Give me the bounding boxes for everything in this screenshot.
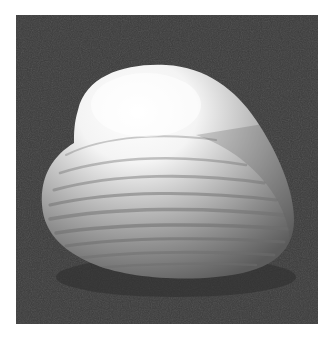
shell-photo: Black and white photograph of a clam she… [16,15,318,324]
clam-shell-illustration [16,15,318,324]
